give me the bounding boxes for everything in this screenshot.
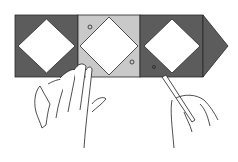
strip-arrow-end: [203, 15, 228, 77]
right-hand: [171, 95, 218, 148]
patchwork-illustration: [0, 0, 238, 162]
patchwork-strip: [15, 15, 228, 77]
tweezers-icon: [162, 75, 195, 122]
